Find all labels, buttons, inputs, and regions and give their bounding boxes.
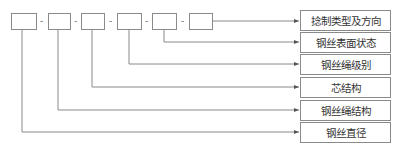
label-wire-surface-state: 钢丝表面状态 — [300, 32, 391, 53]
label-lay-type-direction: 捻制类型及方向 — [300, 10, 391, 31]
separator-2: - — [74, 16, 77, 26]
label-rope-grade: 钢丝绳级别 — [300, 54, 391, 75]
separator-4: - — [145, 16, 148, 26]
code-box-5 — [152, 13, 177, 30]
separator-1: - — [40, 16, 43, 26]
separator-3: - — [109, 16, 112, 26]
code-box-3 — [81, 13, 105, 30]
separator-5: - — [181, 16, 184, 26]
label-core-structure: 芯结构 — [300, 77, 391, 98]
code-box-6 — [189, 13, 213, 30]
code-box-4 — [117, 13, 142, 30]
code-box-1 — [11, 13, 37, 30]
label-rope-structure: 钢丝绳结构 — [300, 100, 391, 121]
code-box-2 — [48, 13, 71, 30]
label-wire-diameter: 钢丝直径 — [300, 122, 391, 143]
